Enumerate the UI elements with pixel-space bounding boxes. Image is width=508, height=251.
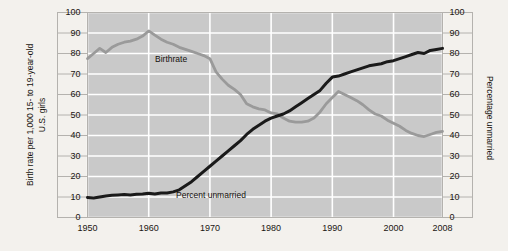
x-axis-tick-label: 1960 [139, 223, 159, 233]
y2-axis-tick-label: 70 [450, 69, 460, 79]
y-axis-tick-label: 80 [70, 48, 80, 58]
x-axis-tick-label: 1970 [200, 223, 220, 233]
y2-axis-tick-label: 60 [450, 89, 460, 99]
y-axis-tick-label: 30 [70, 151, 80, 161]
birthrate-series-label: Birthrate [155, 54, 187, 64]
x-axis-tick-label: 1990 [322, 223, 342, 233]
y-axis-tick-label: 20 [70, 171, 80, 181]
y2-axis-tick-label: 30 [450, 151, 460, 161]
x-axis-tick-label: 2000 [384, 223, 404, 233]
y2-axis-tick-label: 90 [450, 28, 460, 38]
line-chart-svg: 0010102020303040405050606070708080909010… [0, 0, 508, 251]
y2-axis-tick-label: 40 [450, 130, 460, 140]
y-axis-tick-label: 0 [75, 212, 80, 222]
y-axis-tick-label: 70 [70, 69, 80, 79]
y-axis-title-line1: Birth rate per 1,000 15- to 19-year-old [25, 44, 35, 186]
y-axis-title-line2: U.S. girls [37, 98, 47, 132]
y2-axis-tick-label: 50 [450, 110, 460, 120]
x-axis-tick-label: 1980 [261, 223, 281, 233]
y-axis-tick-label: 40 [70, 130, 80, 140]
percent-unmarried-series-label: Percent unmarried [176, 190, 246, 200]
y-axis-tick-label: 90 [70, 28, 80, 38]
y-axis-tick-label: 10 [70, 192, 80, 202]
y-axis-tick-label: 100 [65, 7, 80, 17]
y-axis-tick-label: 60 [70, 89, 80, 99]
y2-axis-title: Percentage unmarried [485, 76, 495, 160]
chart-figure: 0010102020303040405050606070708080909010… [0, 0, 508, 251]
y2-axis-tick-label: 10 [450, 192, 460, 202]
x-axis-tick-label: 1950 [77, 223, 97, 233]
y2-axis-tick-label: 80 [450, 48, 460, 58]
y2-axis-tick-label: 20 [450, 171, 460, 181]
x-axis-tick-label: 2008 [432, 223, 452, 233]
y2-axis-tick-label: 100 [450, 7, 465, 17]
y-axis-tick-label: 50 [70, 110, 80, 120]
y2-axis-tick-label: 0 [450, 212, 455, 222]
